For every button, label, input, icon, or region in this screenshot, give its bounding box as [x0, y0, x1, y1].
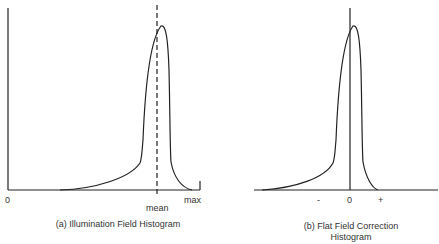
panel-b-x-label-plus: +: [378, 195, 383, 205]
panel-b-x-label-zero: 0: [347, 195, 352, 205]
histogram-figure: [0, 0, 439, 244]
panel-a-caption: (a) Illumination Field Histogram: [50, 219, 186, 230]
panel-b-flat-field-histogram: [254, 8, 438, 190]
panel-a-x-label-max: max: [184, 195, 201, 205]
panel-b-caption-line2: Histogram: [291, 232, 411, 243]
panel-a-histogram-curve: [60, 26, 192, 190]
panel-a-x-label-mean: mean: [146, 203, 169, 213]
panel-b-caption-line1: (b) Flat Field Correction: [291, 221, 411, 232]
panel-b-histogram-curve: [262, 26, 378, 190]
panel-a-illumination-histogram: [8, 5, 200, 197]
panel-b-caption: (b) Flat Field Correction Histogram: [291, 221, 411, 243]
panel-b-x-label-minus: -: [317, 195, 320, 205]
panel-a-x-label-zero: 0: [5, 195, 10, 205]
